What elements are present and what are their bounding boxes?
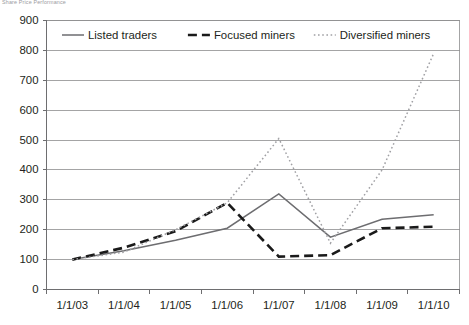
line-chart: 0100200300400500600700800900 1/1/031/1/0… xyxy=(0,0,469,325)
y-axis-tick-label: 300 xyxy=(19,193,38,205)
y-axis-tick-label: 900 xyxy=(19,14,38,26)
y-axis-tick-label: 800 xyxy=(19,44,38,56)
legend-label-listed-traders: Listed traders xyxy=(88,29,157,41)
gridlines-group xyxy=(47,21,460,290)
legend-label-focused-miners: Focused miners xyxy=(214,29,295,41)
y-axis-tick-label: 500 xyxy=(19,134,38,146)
x-axis-tick-label: 1/1/10 xyxy=(418,299,450,311)
y-axis-tick-label: 700 xyxy=(19,74,38,86)
y-axis-tick-label: 0 xyxy=(32,283,38,295)
series-lines-group xyxy=(72,53,433,259)
chart-plot-area: 0100200300400500600700800900 1/1/031/1/0… xyxy=(0,0,469,325)
legend-label-diversified-miners: Diversified miners xyxy=(340,29,431,41)
y-axis-tick-label: 600 xyxy=(19,104,38,116)
plot-frame xyxy=(47,21,460,290)
series-line-listed-traders xyxy=(72,194,433,260)
y-axis-tick-label: 100 xyxy=(19,253,38,265)
x-axis-tick-label: 1/1/05 xyxy=(160,299,192,311)
figure-container: Share Price Performance 0100200300400500… xyxy=(0,0,469,325)
x-axis-tick-label: 1/1/09 xyxy=(366,299,398,311)
x-axis-tick-label: 1/1/04 xyxy=(108,299,140,311)
x-axis-labels-group: 1/1/031/1/041/1/051/1/061/1/071/1/081/1/… xyxy=(56,299,449,311)
y-axis-tick-label: 200 xyxy=(19,223,38,235)
x-axis-tick-label: 1/1/03 xyxy=(56,299,88,311)
x-axis-tick-label: 1/1/07 xyxy=(263,299,295,311)
chart-legend: Listed tradersFocused minersDiversified … xyxy=(62,29,431,41)
y-axis-tick-label: 400 xyxy=(19,163,38,175)
x-axis-tick-label: 1/1/08 xyxy=(315,299,347,311)
y-axis-labels-group: 0100200300400500600700800900 xyxy=(19,14,38,295)
x-axis-tick-label: 1/1/06 xyxy=(211,299,243,311)
